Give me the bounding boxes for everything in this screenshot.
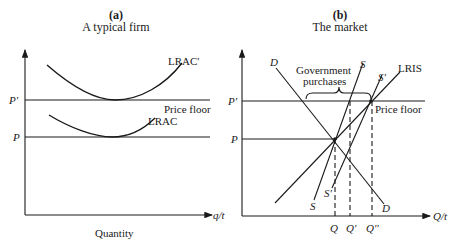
panel-b-equilibrium-p-prime [369,99,373,103]
lrac-label: LRAC [148,115,177,127]
lris-label: LRIS [398,62,422,74]
supply-s-top-label: S [360,58,366,70]
panel-b-equilibrium-p [333,137,337,141]
panel-b-p-label: P [231,133,238,145]
supply-s-prime-curve [332,75,382,188]
government-purchases-brace [306,87,371,99]
lrac-prime-label: LRAC' [168,55,199,67]
supply-s-prime-bottom-label: S' [324,187,332,199]
panel-a-title: A typical firm [66,21,166,33]
supply-s-prime-top-label: S' [378,71,386,83]
demand-bottom-label: D [382,202,390,214]
lrac-prime-curve [47,63,182,100]
lrac-curve [49,115,155,137]
q-tick-label: Q [330,222,338,234]
panel-a-x-caption: Quantity [95,227,134,239]
panel-b-price-floor-label: Price floor [375,103,422,115]
panel-a-x-axis-label: q/t [213,209,225,221]
panel-a-p-prime-label: P' [9,94,18,106]
panel-a-price-floor-label: Price floor [164,103,211,115]
annotation-line2: purchases [303,75,346,87]
demand-curve [276,68,384,204]
panel-a-p-label: P [13,131,20,143]
panel-b-p-prime-label: P' [228,95,237,107]
supply-s-bottom-label: S [310,200,316,212]
demand-top-label: D [270,56,278,68]
panel-b-x-axis-label: Q/t [433,210,447,222]
panel-b-title: The market [290,21,390,33]
q-prime-tick-label: Q' [346,222,356,234]
q-dprime-tick-label: Q'' [366,222,379,234]
